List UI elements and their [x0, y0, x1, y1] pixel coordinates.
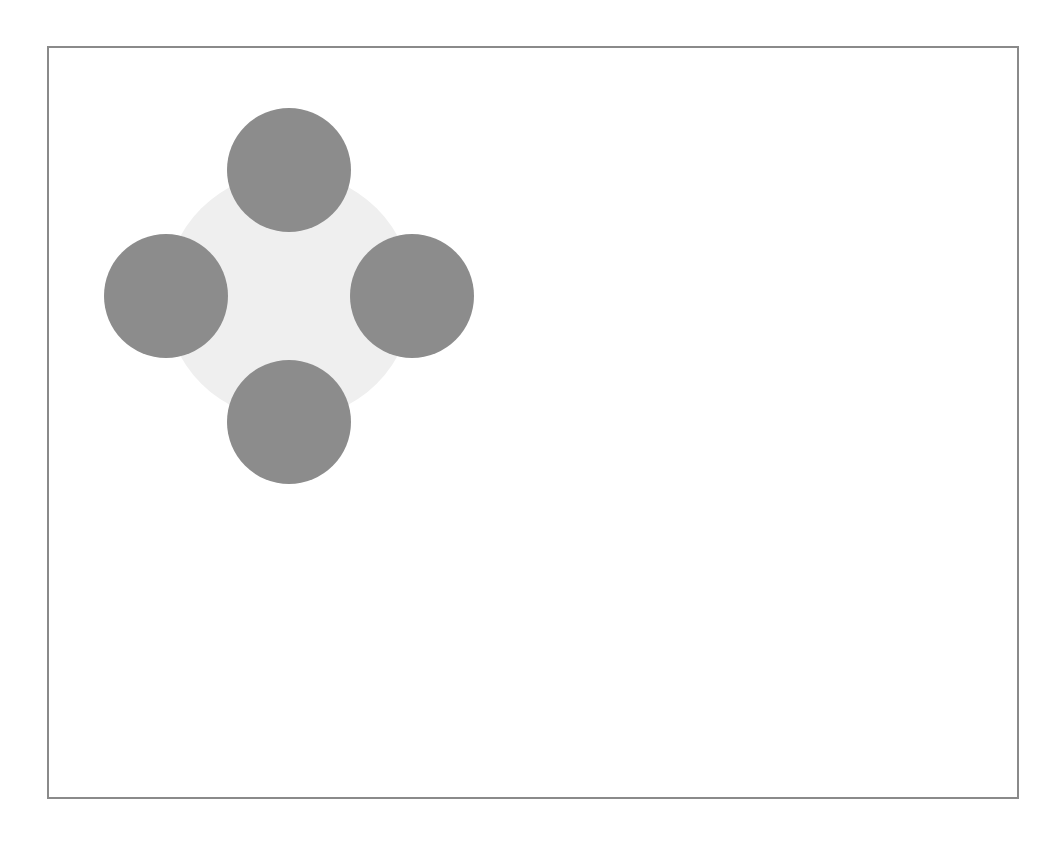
satellite-circle-bottom: [227, 360, 351, 484]
canvas-frame: [47, 46, 1019, 799]
satellite-circle-top: [227, 108, 351, 232]
satellite-circle-left: [104, 234, 228, 358]
satellite-circle-right: [350, 234, 474, 358]
